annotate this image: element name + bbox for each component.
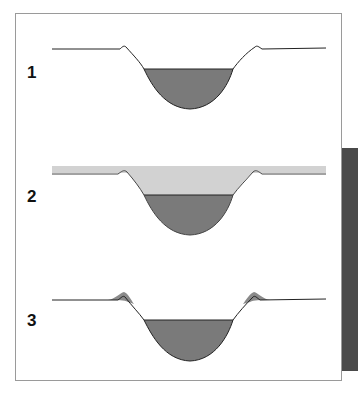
panel-2-label: 2 [27,187,36,207]
panel-3-diagram [52,292,326,361]
panel-2-diagram [52,166,326,235]
panel-1-label: 1 [27,63,36,83]
panel-3-label: 3 [27,311,36,331]
panel-1-diagram [52,46,326,109]
channel-diagrams [0,0,358,393]
